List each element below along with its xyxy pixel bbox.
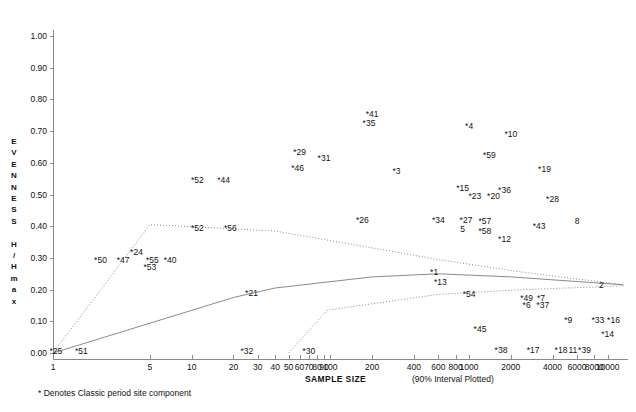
data-point-label: *44 <box>217 175 230 185</box>
figure-caption: * Denotes Classic period site component <box>38 388 191 398</box>
y-axis-tick <box>50 99 53 100</box>
y-axis-title-char: a <box>8 284 20 295</box>
y-axis-title-char: E <box>8 193 20 204</box>
data-point-label: *31 <box>318 153 331 163</box>
data-point-label: *34 <box>432 215 445 225</box>
x-axis-tick-label: 10000 <box>596 362 620 372</box>
x-axis-tick-label: 1 <box>51 362 56 372</box>
data-point-label: *4 <box>465 121 473 131</box>
data-point-label: *19 <box>538 164 551 174</box>
y-axis-title-char: H <box>8 239 20 250</box>
x-axis-line <box>53 359 628 360</box>
data-point-label: *57 <box>479 216 492 226</box>
x-axis-tick-label: 30 <box>253 362 262 372</box>
data-point-label: *33 <box>592 315 605 325</box>
x-axis-tick-label: 60 <box>295 362 304 372</box>
x-axis-tick <box>275 355 276 359</box>
x-axis-tick-label: 20 <box>229 362 238 372</box>
y-axis-tick <box>50 226 53 227</box>
data-point-label: *3 <box>392 166 400 176</box>
data-point-label: 5 <box>460 224 465 234</box>
data-point-label: *43 <box>533 221 546 231</box>
x-axis-tick <box>608 355 609 359</box>
data-point-label: *58 <box>479 226 492 236</box>
data-point-label: *26 <box>356 215 369 225</box>
x-axis-tick-label: 1000 <box>460 362 479 372</box>
data-point-label: *39 <box>578 345 591 355</box>
x-axis-tick <box>594 355 595 359</box>
y-axis-tick-label: 0.40 <box>21 221 47 231</box>
data-point-label: *21 <box>245 288 258 298</box>
x-axis-tick <box>233 355 234 359</box>
curve-upper-interval-bound <box>53 225 624 353</box>
y-axis-tick <box>50 36 53 37</box>
data-point-label: *37 <box>536 300 549 310</box>
x-axis-tick <box>324 355 325 359</box>
y-axis-tick-label: 1.00 <box>21 31 47 41</box>
data-point-label: *14 <box>601 329 614 339</box>
data-point-label: *47 <box>117 255 130 265</box>
data-point-label: 2 <box>599 280 604 290</box>
data-point-label: *20 <box>487 191 500 201</box>
data-point-label: *25 <box>50 346 63 356</box>
x-axis-tick-label: 6000 <box>567 362 586 372</box>
curve-lower-interval-bound <box>289 286 624 353</box>
evenness-sample-size-scatter-figure: E V E N N E S S H / H m a x 0.000.100.20… <box>0 0 636 412</box>
data-point-label: *51 <box>75 346 88 356</box>
x-axis-tick <box>438 355 439 359</box>
x-axis-tick <box>300 355 301 359</box>
x-axis-tick <box>317 355 318 359</box>
data-point-label: *46 <box>291 163 304 173</box>
y-axis-tick <box>50 195 53 196</box>
x-axis-tick <box>414 355 415 359</box>
x-axis-tick <box>577 355 578 359</box>
data-point-label: *35 <box>363 118 376 128</box>
x-axis-tick <box>372 355 373 359</box>
data-point-label: *50 <box>94 255 107 265</box>
x-axis-tick <box>289 355 290 359</box>
x-axis-tick <box>150 355 151 359</box>
data-point-label: *23 <box>468 191 481 201</box>
data-point-label: *41 <box>366 109 379 119</box>
data-point-label: *9 <box>564 315 572 325</box>
data-point-label: *59 <box>483 150 496 160</box>
interval-note: (90% Interval Plotted) <box>412 374 494 384</box>
data-point-label: 8 <box>575 216 580 226</box>
data-point-label: *32 <box>241 346 254 356</box>
y-axis-tick-label: 0.70 <box>21 126 47 136</box>
data-point-label: *16 <box>607 315 620 325</box>
data-point-label: *54 <box>463 289 476 299</box>
y-axis-title-char: N <box>8 170 20 181</box>
y-axis-tick <box>50 131 53 132</box>
data-point-label: *27 <box>460 215 473 225</box>
y-axis-title: E V E N N E S S H / H m a x <box>8 136 20 307</box>
data-point-label: *18 <box>555 345 568 355</box>
y-axis-tick-label: 0.60 <box>21 158 47 168</box>
x-axis-tick-label: 600 <box>431 362 445 372</box>
x-axis-tick-label: 4000 <box>543 362 562 372</box>
data-point-label: *53 <box>144 262 157 272</box>
y-axis-title-char: / <box>8 250 20 261</box>
data-point-label: *1 <box>430 267 438 277</box>
data-point-label: *6 <box>523 300 531 310</box>
x-axis-tick <box>456 355 457 359</box>
y-axis-title-char: S <box>8 216 20 227</box>
y-axis-title-char: x <box>8 296 20 307</box>
data-point-label: *10 <box>504 129 517 139</box>
y-axis-tick <box>50 163 53 164</box>
data-point-label: *40 <box>164 255 177 265</box>
y-axis-title-spacer <box>8 227 20 238</box>
data-point-label: 11 <box>568 345 577 355</box>
x-axis-tick <box>469 355 470 359</box>
y-axis-tick <box>50 258 53 259</box>
y-axis-tick <box>50 68 53 69</box>
data-point-label: *12 <box>498 234 511 244</box>
x-axis-tick <box>511 355 512 359</box>
curve-median-fit <box>53 274 624 353</box>
y-axis-line <box>53 30 54 355</box>
interval-curves <box>0 0 636 412</box>
data-point-label: *45 <box>474 324 487 334</box>
x-axis-tick <box>192 355 193 359</box>
y-axis-tick <box>50 290 53 291</box>
data-point-label: *38 <box>495 345 508 355</box>
